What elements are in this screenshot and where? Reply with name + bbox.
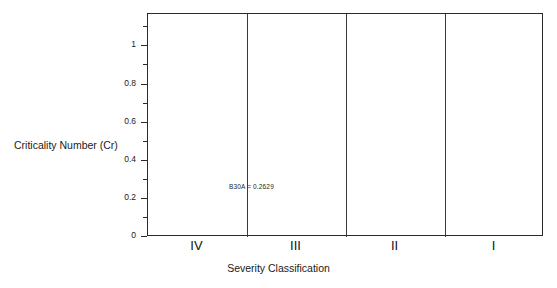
y-axis-tick-label: 0.4 (96, 155, 136, 164)
x-axis-title: Severity Classification (0, 262, 557, 274)
y-axis-tick-label: 0.2 (96, 193, 136, 202)
y-axis-tick-label: 0.6 (96, 117, 136, 126)
x-axis-category-IV: IV (167, 238, 227, 254)
x-axis-category-II: II (365, 238, 425, 254)
y-axis-tick-label: 0.8 (96, 79, 136, 88)
data-point-label-B30A: B30A = 0.2629 (229, 183, 274, 191)
criticality-matrix-chart: Criticality Number (Cr) 10.80.60.40.20 B… (0, 0, 557, 288)
severity-band-separator (247, 14, 248, 237)
x-axis-category-III: III (266, 238, 326, 254)
severity-band-separator (346, 14, 347, 237)
severity-band-separator (445, 14, 446, 237)
y-axis-tick-label: 1 (96, 40, 136, 49)
x-axis-category-I: I (464, 238, 524, 254)
y-axis-title: Criticality Number (Cr) (14, 139, 118, 151)
y-axis-major-tick (141, 236, 147, 237)
y-axis-tick-label: 0 (96, 231, 136, 240)
plot-area: B30A = 0.2629 (147, 13, 543, 236)
